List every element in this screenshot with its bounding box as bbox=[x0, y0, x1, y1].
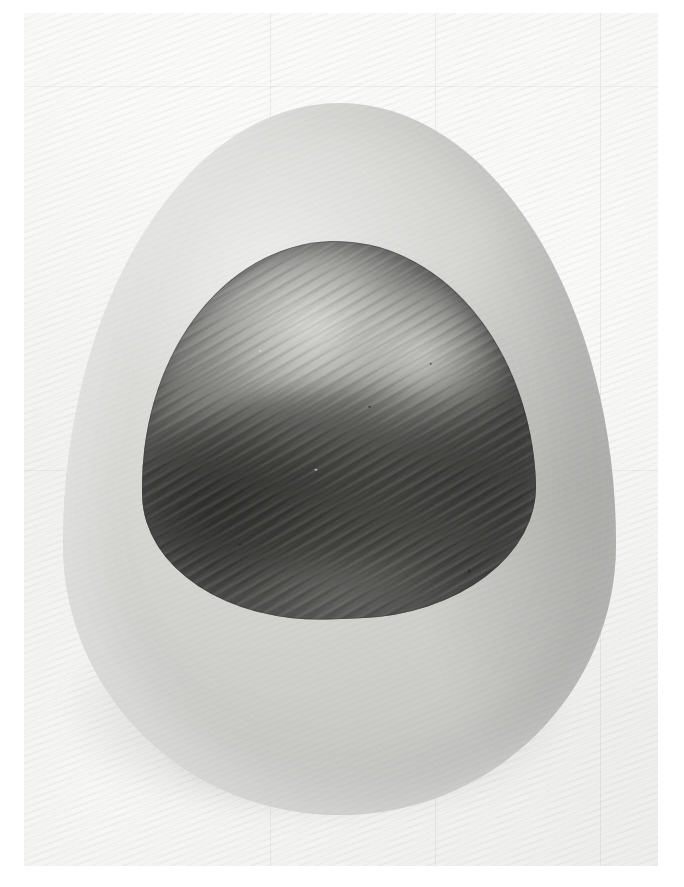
seam-horizontal bbox=[24, 86, 658, 87]
inner-dark-form bbox=[134, 234, 541, 626]
artwork-canvas bbox=[0, 0, 684, 887]
